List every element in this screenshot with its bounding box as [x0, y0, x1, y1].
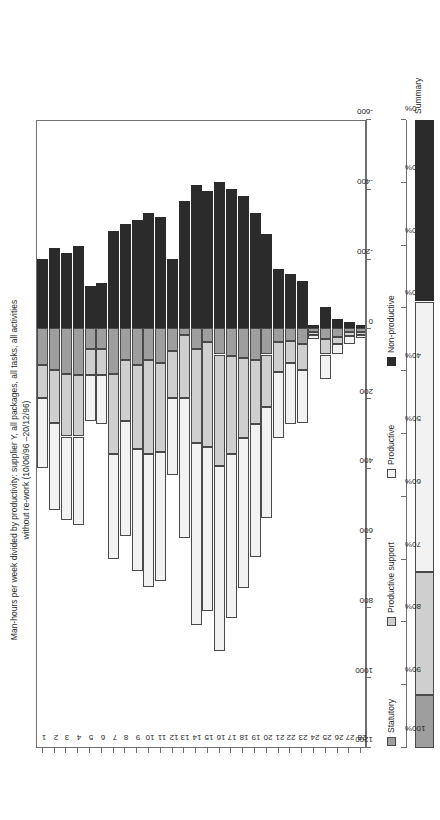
percent-tick	[401, 747, 406, 748]
bar-group-13	[179, 120, 190, 747]
legend-item-productive: Productive	[386, 425, 396, 478]
bar-segment-nonprod	[344, 322, 355, 328]
percent-tick	[401, 433, 406, 434]
value-tick	[366, 677, 371, 678]
bar-group-19	[250, 120, 261, 747]
bar-segment-nonprod	[73, 246, 84, 328]
bar-segment-nonprod	[273, 269, 284, 328]
percent-tick-label: 30%	[405, 288, 421, 297]
bar-segment-nonprod	[238, 196, 249, 329]
bar-group-9	[132, 120, 143, 747]
percent-tick-label: 70%	[405, 540, 421, 549]
category-tick	[278, 748, 279, 753]
bar-segment-nonprod	[191, 185, 202, 328]
category-tick	[148, 748, 149, 753]
category-tick	[313, 748, 314, 753]
bar-segment-productive	[238, 438, 249, 588]
bar-segment-statutory	[143, 328, 154, 359]
bar-segment-nonprod	[214, 182, 225, 329]
category-tick	[254, 748, 255, 753]
bar-segment-psupport	[37, 365, 48, 398]
bar-segment-psupport	[297, 344, 308, 370]
bar-group-23	[297, 120, 308, 747]
value-tick-label: 800	[360, 596, 373, 605]
percent-tick	[401, 370, 406, 371]
percent-tick	[401, 684, 406, 685]
bar-segment-productive	[73, 437, 84, 526]
legend-swatch-icon	[387, 469, 396, 478]
bar-segment-statutory	[108, 328, 119, 373]
bar-segment-statutory	[37, 328, 48, 365]
bar-segment-productive	[132, 449, 143, 571]
bar-segment-psupport	[226, 356, 237, 454]
bar-group-12	[167, 120, 178, 747]
bar-segment-nonprod	[308, 325, 319, 328]
category-tick	[301, 748, 302, 753]
bar-segment-statutory	[261, 328, 272, 354]
category-tick	[219, 748, 220, 753]
value-tick	[366, 328, 371, 329]
category-tick	[77, 748, 78, 753]
value-tick	[366, 259, 371, 260]
bar-segment-productive	[179, 398, 190, 538]
bar-segment-productive	[155, 452, 166, 581]
bar-group-14	[191, 120, 202, 747]
legend-label: Productive support	[386, 542, 396, 613]
bar-segment-nonprod	[155, 217, 166, 329]
category-tick	[183, 748, 184, 753]
category-tick	[348, 748, 349, 753]
value-tick-label: 0	[369, 317, 373, 326]
bar-segment-statutory	[73, 328, 84, 375]
bar-segment-psupport	[320, 339, 331, 355]
bar-segment-statutory	[226, 328, 237, 356]
bar-segment-psupport	[85, 349, 96, 375]
legend-item-psupport: Productive support	[386, 542, 396, 626]
bar-segment-psupport	[61, 374, 72, 437]
bar-segment-statutory	[120, 328, 131, 359]
bar-segment-productive	[285, 363, 296, 424]
bar-group-28	[356, 120, 366, 747]
bar-segment-productive	[85, 375, 96, 420]
category-tick	[360, 748, 361, 753]
bar-segment-statutory	[179, 328, 190, 335]
bar-segment-productive	[191, 443, 202, 624]
bar-group-26	[332, 120, 343, 747]
bar-segment-productive	[108, 454, 119, 559]
bar-segment-productive	[167, 398, 178, 475]
bar-segment-productive	[250, 424, 261, 557]
category-tick	[65, 748, 66, 753]
category-tick	[89, 748, 90, 753]
bar-segment-psupport	[191, 349, 202, 443]
bar-segment-psupport	[202, 342, 213, 447]
bar-segment-productive	[37, 398, 48, 468]
percent-tick-label: 40%	[405, 351, 421, 360]
percent-axis-line	[406, 120, 407, 748]
bar-group-24	[308, 120, 319, 747]
bar-segment-statutory	[285, 328, 296, 340]
bar-segment-statutory	[85, 328, 96, 349]
summary-segment-productive	[415, 302, 434, 572]
bar-segment-statutory	[202, 328, 213, 342]
category-tick	[289, 748, 290, 753]
value-tick-label: 400	[360, 456, 373, 465]
bar-segment-psupport	[96, 349, 107, 375]
bar-segment-productive	[261, 407, 272, 519]
bar-segment-statutory	[61, 328, 72, 373]
value-tick-label: -400	[357, 177, 373, 186]
bar-segment-nonprod	[143, 213, 154, 328]
bar-group-21	[273, 120, 284, 747]
value-tick-label: -600	[357, 108, 373, 117]
bar-segment-psupport	[261, 355, 272, 407]
bar-group-17	[226, 120, 237, 747]
legend: StatutoryProductive supportProductiveNon…	[386, 118, 400, 746]
bar-segment-nonprod	[261, 234, 272, 328]
category-tick	[207, 748, 208, 753]
bar-group-6	[96, 120, 107, 747]
bar-group-22	[285, 120, 296, 747]
summary-segment-psupport	[415, 572, 434, 695]
bar-group-25	[320, 120, 331, 747]
percent-tick-label: 100%	[405, 724, 425, 733]
value-tick-label: -200	[357, 247, 373, 256]
category-tick	[337, 748, 338, 753]
bar-segment-statutory	[132, 328, 143, 365]
